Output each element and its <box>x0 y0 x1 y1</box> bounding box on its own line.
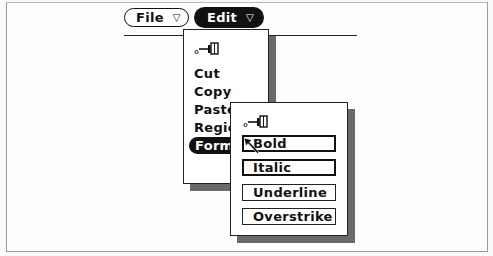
format-overstrike-button[interactable]: Overstrike <box>242 208 336 225</box>
format-italic-button[interactable]: Italic <box>242 159 336 176</box>
mouse-pointer-icon <box>243 137 261 155</box>
menu-item-cut[interactable]: Cut <box>194 66 220 81</box>
file-menu-button[interactable]: File ▽ <box>124 8 189 27</box>
edit-menu-label: Edit <box>207 10 237 25</box>
format-underline-button[interactable]: Underline <box>242 184 336 201</box>
menu-triangle-icon: ▽ <box>173 12 181 23</box>
format-submenu: Bold Italic Underline Overstrike <box>230 102 348 236</box>
pushpin-icon[interactable] <box>194 42 224 56</box>
pushpin-icon[interactable] <box>243 115 273 129</box>
menu-item-copy[interactable]: Copy <box>194 84 231 99</box>
menu-triangle-icon: ▽ <box>246 12 254 23</box>
file-menu-label: File <box>136 10 164 25</box>
edit-menu-button[interactable]: Edit ▽ <box>195 8 263 27</box>
